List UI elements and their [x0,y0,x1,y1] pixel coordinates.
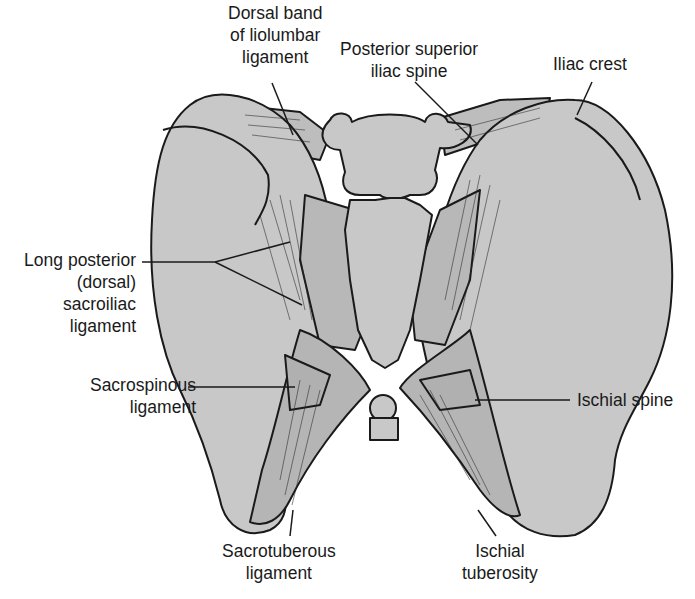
right-ilium [420,100,672,536]
label-ischial-tuberosity: Ischial tuberosity [462,540,538,584]
label-sacrospinous-ligament: Sacrospinous ligament [60,374,196,418]
label-sacrotuberous-ligament: Sacrotuberous ligament [222,540,336,584]
label-line: Iliac crest [553,53,627,75]
label-line: Sacrotuberous [222,540,336,562]
label-line: ligament [228,46,322,68]
label-long-posterior-sacroiliac: Long posterior (dorsal) sacroiliac ligam… [2,249,136,337]
label-line: ligament [60,396,196,418]
label-line: Dorsal band [228,2,322,24]
leader-sacrotuberous [290,510,293,536]
label-line: (dorsal) [2,271,136,293]
label-iliac-crest: Iliac crest [553,53,627,75]
label-line: Long posterior [2,249,136,271]
pubic-region [370,418,398,440]
label-ischial-spine: Ischial spine [577,389,673,411]
label-dorsal-band-iliolumbar: Dorsal band of liolumbar ligament [228,2,322,68]
label-line: Posterior superior [340,38,478,60]
label-line: of liolumbar [228,24,322,46]
label-line: iliac spine [340,60,478,82]
label-line: tuberosity [462,562,538,584]
label-line: Ischial spine [577,389,673,411]
label-line: ligament [2,315,136,337]
label-line: ligament [222,562,336,584]
label-line: Sacrospinous [60,374,196,396]
label-line: sacroiliac [2,293,136,315]
leader-ischial-tuberosity [478,510,496,536]
l5-vertebra [323,113,471,198]
label-posterior-superior-iliac-spine: Posterior superior iliac spine [340,38,478,82]
label-line: Ischial [462,540,538,562]
